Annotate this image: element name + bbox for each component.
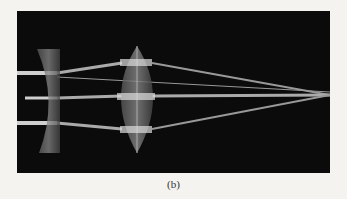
figure-caption: (b) [0, 178, 347, 190]
light-rays [17, 63, 330, 129]
concave-lens [37, 49, 60, 153]
optics-photo [17, 11, 330, 173]
